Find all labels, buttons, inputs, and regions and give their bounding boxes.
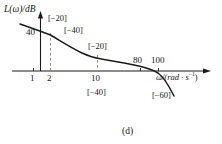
slope-annotation-minus60: [−60]: [152, 91, 171, 100]
slope-annotation-minus40-first: [−40]: [64, 26, 83, 35]
y-axis: [38, 11, 43, 71]
bode-magnitude-figure: L(ω)/dB ω/(rad · s−1) 40 1 2 10 80 100 […: [0, 0, 222, 144]
x-axis-title-main: ω/(rad · s: [156, 72, 189, 82]
y-axis-title-text: L(ω)/dB: [4, 4, 36, 14]
slope-annotation-minus20-first: [−20]: [48, 14, 67, 23]
x-tick-label-80: 80: [133, 56, 142, 65]
y-value-40: 40: [26, 28, 35, 37]
figure-caption: (d): [122, 127, 133, 137]
x-tick-label-100: 100: [151, 56, 165, 65]
slope-annotation-minus20-second: [−20]: [88, 42, 107, 51]
x-tick-label-2: 2: [47, 74, 52, 83]
x-axis-title: ω/(rad · s−1): [156, 73, 198, 82]
x-axis-title-close: ): [195, 72, 198, 82]
y-axis-title: L(ω)/dB: [4, 5, 36, 15]
x-tick-label-1: 1: [30, 74, 35, 83]
slope-annotation-minus40-second: [−40]: [87, 88, 106, 97]
x-tick-label-10: 10: [91, 74, 100, 83]
